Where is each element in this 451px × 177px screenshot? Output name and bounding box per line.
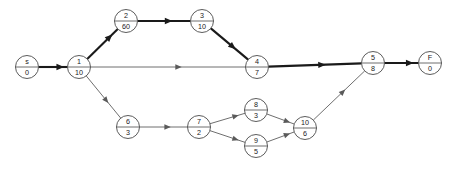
- node-id-label: F: [428, 53, 433, 62]
- edge-7-to-9: [210, 131, 245, 143]
- node-6[interactable]: 63: [117, 116, 140, 139]
- edge-arrowhead-icon: [175, 64, 181, 69]
- node-value-label: 5: [254, 147, 258, 156]
- node-10[interactable]: 106: [294, 117, 317, 140]
- node-id-label: 10: [301, 118, 309, 127]
- node-F[interactable]: F0: [419, 52, 442, 75]
- node-value-label: 3: [126, 128, 130, 137]
- node-1[interactable]: 110: [68, 56, 91, 79]
- node-id-label: s: [25, 57, 29, 66]
- edge-arrowhead-icon: [406, 60, 414, 66]
- node-value-label: 0: [25, 68, 29, 77]
- edge-3-to-4: [211, 28, 248, 59]
- node-value-label: 3: [254, 111, 258, 120]
- edge-2-to-3: [138, 18, 191, 24]
- node-layer: s01102603104758F063728395106: [16, 10, 442, 158]
- node-id-label: 7: [197, 117, 201, 126]
- edge-4-to-5: [268, 62, 361, 68]
- node-5[interactable]: 58: [362, 52, 385, 75]
- node-id-label: 9: [254, 136, 258, 145]
- node-s[interactable]: s0: [16, 56, 39, 79]
- node-4[interactable]: 47: [246, 56, 269, 79]
- edge-line: [313, 71, 364, 120]
- node-id-label: 3: [200, 11, 204, 20]
- edge-arrowhead-icon: [232, 114, 239, 119]
- node-id-label: 4: [255, 57, 259, 66]
- edge-line: [210, 131, 245, 143]
- edge-8-to-10: [267, 114, 294, 124]
- node-value-label: 2: [197, 128, 201, 137]
- edge-arrowhead-icon: [283, 133, 290, 138]
- network-diagram: s01102603104758F063728395106: [0, 0, 451, 177]
- node-id-label: 5: [371, 53, 375, 62]
- edge-7-to-8: [210, 113, 245, 123]
- node-id-label: 6: [126, 117, 130, 126]
- node-3[interactable]: 310: [191, 10, 214, 33]
- node-9[interactable]: 95: [245, 135, 268, 158]
- node-id-label: 2: [124, 11, 128, 20]
- node-id-label: 1: [77, 57, 81, 66]
- network-diagram-canvas: s01102603104758F063728395106: [0, 0, 451, 177]
- edge-1-to-6: [86, 76, 120, 118]
- edge-1-to-2: [87, 29, 118, 59]
- node-value-label: 8: [371, 64, 375, 73]
- edge-9-to-10: [267, 132, 294, 142]
- edge-line: [211, 28, 248, 59]
- node-value-label: 10: [198, 22, 206, 31]
- edge-line: [87, 29, 118, 59]
- edge-arrowhead-icon: [165, 18, 173, 24]
- node-7[interactable]: 72: [188, 116, 211, 139]
- node-8[interactable]: 83: [245, 99, 268, 122]
- edge-arrowhead-icon: [56, 64, 64, 70]
- edge-arrowhead-icon: [164, 124, 170, 129]
- node-value-label: 7: [255, 68, 259, 77]
- edge-arrowhead-icon: [232, 136, 239, 141]
- node-value-label: 10: [75, 68, 83, 77]
- edge-line: [86, 76, 120, 118]
- node-id-label: 8: [254, 100, 258, 109]
- node-value-label: 60: [122, 22, 130, 31]
- node-value-label: 6: [303, 129, 307, 138]
- edge-arrowhead-icon: [318, 62, 326, 68]
- edge-5-to-F: [385, 60, 419, 66]
- edge-6-to-7: [140, 124, 188, 129]
- edge-1-to-4: [91, 64, 246, 69]
- edge-arrowhead-icon: [283, 118, 290, 123]
- edge-line: [210, 113, 245, 123]
- node-2[interactable]: 260: [115, 10, 138, 33]
- edge-s-to-1: [39, 64, 68, 70]
- edge-line: [268, 63, 361, 66]
- node-value-label: 0: [428, 64, 432, 73]
- edge-layer: [39, 18, 419, 143]
- edge-10-to-5: [313, 71, 364, 120]
